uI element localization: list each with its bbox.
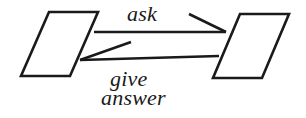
right-parallelogram[interactable]: [213, 14, 289, 78]
left-parallelogram[interactable]: [21, 12, 98, 76]
give-answer-arrowhead-icon: [80, 42, 131, 60]
ask-arrowhead-icon: [189, 14, 226, 32]
ask-label: ask: [127, 3, 157, 25]
answer-label: answer: [101, 87, 166, 109]
give-answer-connector-line[interactable]: [80, 56, 219, 60]
diagram-canvas: ask give answer: [0, 0, 306, 118]
